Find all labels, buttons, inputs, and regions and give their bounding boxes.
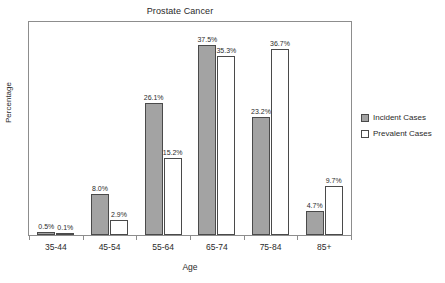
- bar[interactable]: [56, 233, 74, 235]
- x-axis-tick: [297, 236, 298, 240]
- x-axis-tick-labels: 35-4445-5455-6465-7475-8485+: [29, 242, 351, 252]
- x-tick-label: 55-64: [136, 242, 190, 252]
- y-axis-title: Percentage: [4, 43, 13, 163]
- bar-group-85plus: 4.7%9.7%: [297, 22, 351, 235]
- x-axis-tick: [83, 236, 84, 240]
- bar-value-label: 35.3%: [216, 47, 236, 54]
- bar-value-label: 8.0%: [92, 185, 108, 192]
- bar-groups: 0.5%0.1%8.0%2.9%26.1%15.2%37.5%35.3%23.2…: [29, 22, 351, 235]
- legend-item-incident-cases[interactable]: Incident Cases: [361, 113, 432, 122]
- bar-value-label: 9.7%: [326, 177, 342, 184]
- bar-group-65-74: 37.5%35.3%: [190, 22, 244, 235]
- bar-group-45-54: 8.0%2.9%: [83, 22, 137, 235]
- x-tick-label: 85+: [297, 242, 351, 252]
- legend-item-prevalent-cases[interactable]: Prevalent Cases: [361, 129, 432, 138]
- legend-label: Prevalent Cases: [373, 129, 432, 138]
- bar-wrap: 9.7%: [325, 22, 343, 235]
- bar[interactable]: [252, 117, 270, 235]
- bar-value-label: 0.5%: [38, 223, 54, 230]
- bar-wrap: 0.5%: [37, 22, 55, 235]
- bar[interactable]: [145, 103, 163, 235]
- x-axis-tick: [29, 236, 30, 240]
- legend-swatch-icon: [361, 130, 369, 138]
- bar-value-label: 36.7%: [270, 40, 290, 47]
- bar[interactable]: [91, 194, 109, 235]
- bar-value-label: 15.2%: [163, 149, 183, 156]
- bar[interactable]: [110, 220, 128, 235]
- bar-wrap: 4.7%: [306, 22, 324, 235]
- bar-value-label: 2.9%: [111, 211, 127, 218]
- x-tick-label: 65-74: [190, 242, 244, 252]
- bar-wrap: 35.3%: [217, 22, 235, 235]
- x-axis-tick: [351, 236, 352, 240]
- x-axis-tick: [190, 236, 191, 240]
- bar-wrap: 8.0%: [91, 22, 109, 235]
- bar-group-75-84: 23.2%36.7%: [244, 22, 298, 235]
- bar-wrap: 26.1%: [145, 22, 163, 235]
- bar-wrap: 2.9%: [110, 22, 128, 235]
- bar-wrap: 36.7%: [271, 22, 289, 235]
- x-axis-title: Age: [28, 262, 352, 272]
- bar[interactable]: [306, 211, 324, 235]
- bar-wrap: 15.2%: [164, 22, 182, 235]
- bar-value-label: 0.1%: [57, 224, 73, 231]
- bar-value-label: 23.2%: [251, 108, 271, 115]
- bar[interactable]: [198, 45, 216, 235]
- bar-group-55-64: 26.1%15.2%: [136, 22, 190, 235]
- bar-value-label: 26.1%: [144, 94, 164, 101]
- x-tick-label: 45-54: [83, 242, 137, 252]
- x-tick-label: 35-44: [29, 242, 83, 252]
- legend-swatch-icon: [361, 114, 369, 122]
- x-tick-label: 75-84: [244, 242, 298, 252]
- legend-label: Incident Cases: [373, 113, 426, 122]
- bar-wrap: 0.1%: [56, 22, 74, 235]
- chart-title: Prostate Cancer: [0, 6, 360, 16]
- bar[interactable]: [325, 186, 343, 235]
- bar[interactable]: [271, 49, 289, 235]
- bar-wrap: 37.5%: [198, 22, 216, 235]
- bar[interactable]: [37, 232, 55, 235]
- x-axis-tick: [136, 236, 137, 240]
- chart-legend: Incident CasesPrevalent Cases: [361, 113, 432, 138]
- bar-value-label: 37.5%: [197, 36, 217, 43]
- bar-group-35-44: 0.5%0.1%: [29, 22, 83, 235]
- bar-chart: Prostate Cancer Percentage 0.5%0.1%8.0%2…: [0, 0, 445, 283]
- bar[interactable]: [217, 56, 235, 235]
- bar-value-label: 4.7%: [307, 202, 323, 209]
- bar-wrap: 23.2%: [252, 22, 270, 235]
- bar[interactable]: [164, 158, 182, 235]
- x-axis-tick: [244, 236, 245, 240]
